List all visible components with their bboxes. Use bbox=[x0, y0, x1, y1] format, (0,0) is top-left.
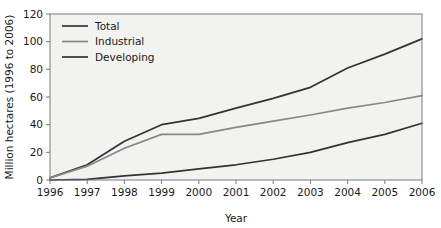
legend-label-total: Total bbox=[94, 20, 120, 32]
x-tick-label: 1996 bbox=[37, 186, 64, 198]
x-tick-label: 2000 bbox=[185, 186, 212, 198]
y-axis-ticks bbox=[46, 14, 50, 180]
x-tick-label: 2006 bbox=[409, 186, 436, 198]
y-tick-label: 40 bbox=[30, 118, 43, 130]
y-tick-label: 60 bbox=[30, 91, 43, 103]
y-tick-label: 80 bbox=[30, 63, 43, 75]
y-tick-label: 0 bbox=[36, 174, 43, 186]
x-tick-label: 2001 bbox=[223, 186, 250, 198]
x-tick-label: 2005 bbox=[371, 186, 398, 198]
y-axis-tick-labels: 020406080100120 bbox=[23, 8, 43, 186]
x-tick-label: 2004 bbox=[334, 186, 361, 198]
x-axis-tick-labels: 1996199719981999200020012002200320042005… bbox=[37, 186, 436, 198]
x-tick-label: 1997 bbox=[74, 186, 101, 198]
chart-canvas: 020406080100120 199619971998199920002001… bbox=[0, 0, 441, 228]
legend-label-developing: Developing bbox=[95, 51, 154, 63]
x-tick-label: 2003 bbox=[297, 186, 324, 198]
line-chart: 020406080100120 199619971998199920002001… bbox=[0, 0, 441, 228]
legend-label-industrial: Industrial bbox=[95, 35, 144, 47]
x-tick-label: 1998 bbox=[111, 186, 138, 198]
x-tick-label: 2002 bbox=[260, 186, 287, 198]
x-axis-title: Year bbox=[224, 212, 248, 224]
x-tick-label: 1999 bbox=[148, 186, 175, 198]
x-axis-ticks bbox=[50, 180, 422, 184]
y-axis-title: Million hectares (1996 to 2006) bbox=[3, 15, 15, 180]
y-tick-label: 120 bbox=[23, 8, 43, 20]
y-tick-label: 100 bbox=[23, 35, 43, 47]
y-tick-label: 20 bbox=[30, 146, 43, 158]
